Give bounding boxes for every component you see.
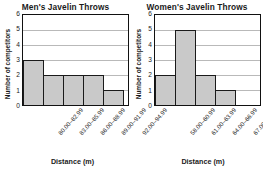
y-axis-label-text: Number of competitors — [135, 29, 142, 99]
y-tick: 1 — [16, 87, 20, 94]
plot-area — [154, 14, 261, 106]
y-tick: 2 — [148, 72, 152, 79]
bar — [103, 90, 124, 105]
bar — [215, 90, 236, 105]
bar — [175, 30, 196, 105]
bar — [23, 60, 44, 105]
y-axis-tick-labels: 0 1 2 3 4 5 6 — [144, 14, 153, 114]
y-axis-label: Number of competitors — [132, 18, 144, 110]
bar — [83, 75, 104, 105]
y-tick: 4 — [148, 41, 152, 48]
y-tick: 4 — [16, 41, 20, 48]
bar-series — [155, 15, 260, 105]
y-tick: 1 — [148, 87, 152, 94]
x-axis-tick-labels: 80.00–82.99 83.00–85.99 86.00–88.99 89.0… — [22, 107, 129, 151]
y-tick: 6 — [148, 11, 152, 18]
bar — [63, 75, 84, 105]
y-tick: 2 — [16, 72, 20, 79]
bar — [195, 75, 216, 105]
y-axis-label-text: Number of competitors — [4, 29, 11, 99]
x-axis-label: Distance (m) — [131, 157, 263, 166]
bar — [155, 75, 176, 105]
plot-area — [22, 14, 129, 106]
x-axis-label: Distance (m) — [0, 157, 131, 166]
y-axis-tick-labels: 0 1 2 3 4 5 6 — [12, 14, 21, 114]
womens-javelin-chart-panel: Women's Javelin Throws Number of competi… — [131, 0, 263, 169]
y-tick: 0 — [16, 103, 20, 110]
x-axis-tick-labels: 58.00–60.99 61.00–63.99 64.00–66.99 67.0… — [154, 107, 261, 151]
y-tick: 3 — [16, 57, 20, 64]
y-tick: 3 — [148, 57, 152, 64]
y-tick: 0 — [148, 103, 152, 110]
y-tick: 6 — [16, 11, 20, 18]
bar — [43, 75, 64, 105]
histograms-figure: Men's Javelin Throws Number of competito… — [0, 0, 263, 169]
y-tick: 5 — [148, 26, 152, 33]
mens-javelin-chart-panel: Men's Javelin Throws Number of competito… — [0, 0, 131, 169]
y-tick: 5 — [16, 26, 20, 33]
bar-series — [23, 15, 128, 105]
